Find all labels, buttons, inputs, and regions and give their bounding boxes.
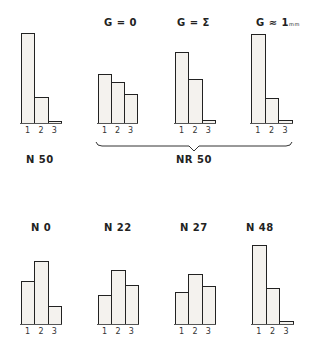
tick-label: 3 bbox=[125, 327, 138, 336]
bar-2 bbox=[188, 274, 202, 325]
tick-label: 2 bbox=[189, 126, 202, 135]
bar-1 bbox=[175, 52, 189, 124]
tick-label: 2 bbox=[112, 327, 125, 336]
bar-1 bbox=[251, 34, 266, 124]
bar-1 bbox=[175, 292, 189, 325]
tick-label: 2 bbox=[266, 327, 279, 336]
bar-2 bbox=[34, 261, 48, 325]
tick-label: 2 bbox=[111, 126, 124, 135]
tick-label: 2 bbox=[35, 126, 48, 135]
tick-label: 3 bbox=[280, 327, 293, 336]
baseline bbox=[97, 123, 138, 124]
bar-1 bbox=[252, 245, 267, 325]
bar-2 bbox=[265, 98, 280, 124]
tick-label: 2 bbox=[265, 126, 278, 135]
nr50-brace bbox=[94, 141, 294, 155]
chart-n22: 123 bbox=[98, 225, 138, 325]
chart-gsigma: 123 bbox=[175, 24, 215, 124]
tick-label: 3 bbox=[48, 126, 61, 135]
bar-1 bbox=[21, 33, 35, 124]
bar-1 bbox=[21, 281, 35, 325]
bar-2 bbox=[111, 82, 125, 124]
chart-g1mm: 123 bbox=[251, 24, 292, 124]
baseline bbox=[251, 324, 294, 325]
tick-label: 3 bbox=[124, 126, 137, 135]
tick-label: 1 bbox=[98, 126, 111, 135]
tick-label: 2 bbox=[35, 327, 48, 336]
label-n50: N 50 bbox=[26, 154, 54, 165]
tick-label: 3 bbox=[48, 327, 61, 336]
tick-label: 1 bbox=[98, 327, 111, 336]
baseline bbox=[250, 123, 293, 124]
tick-label: 3 bbox=[202, 126, 215, 135]
tick-label: 1 bbox=[21, 126, 34, 135]
bar-3 bbox=[125, 285, 139, 325]
tick-label: 1 bbox=[175, 327, 188, 336]
tick-label: 3 bbox=[279, 126, 292, 135]
baseline bbox=[174, 324, 216, 325]
tick-label: 2 bbox=[189, 327, 202, 336]
bar-2 bbox=[34, 97, 48, 124]
chart-g0: 123 bbox=[98, 24, 137, 124]
bar-2 bbox=[111, 270, 125, 325]
baseline bbox=[97, 324, 139, 325]
chart-n50: 123 bbox=[21, 24, 61, 124]
tick-label: 1 bbox=[21, 327, 34, 336]
chart-n0: 123 bbox=[21, 225, 61, 325]
bar-3 bbox=[124, 94, 138, 124]
bar-2 bbox=[188, 79, 202, 124]
baseline bbox=[20, 324, 62, 325]
bar-3 bbox=[48, 306, 62, 325]
tick-label: 3 bbox=[202, 327, 215, 336]
bar-3 bbox=[202, 286, 216, 325]
tick-label: 1 bbox=[251, 126, 264, 135]
tick-label: 1 bbox=[175, 126, 188, 135]
tick-label: 1 bbox=[252, 327, 265, 336]
bar-1 bbox=[98, 295, 112, 325]
chart-n27: 123 bbox=[175, 225, 215, 325]
baseline bbox=[174, 123, 216, 124]
bar-1 bbox=[98, 74, 112, 124]
baseline bbox=[20, 123, 62, 124]
label-nr50: NR 50 bbox=[176, 154, 212, 165]
chart-n48: 123 bbox=[252, 225, 293, 325]
bar-2 bbox=[266, 288, 281, 325]
